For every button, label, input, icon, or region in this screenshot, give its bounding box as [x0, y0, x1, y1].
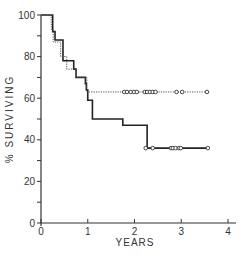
- solid-survival-curve: [41, 15, 207, 148]
- censor-marker: [205, 90, 209, 94]
- censor-marker: [206, 146, 210, 150]
- y-axis-label: % SURVIVING: [4, 75, 15, 164]
- series-layer: [41, 15, 210, 150]
- x-tick-label: 2: [132, 226, 138, 237]
- y-tick-label: 100: [18, 10, 35, 21]
- y-tick-label: 0: [29, 218, 35, 229]
- x-tick-label: 0: [38, 226, 44, 237]
- dotted-survival-curve: [41, 15, 207, 92]
- x-tick-label: 4: [225, 226, 231, 237]
- axes: 01234020406080100: [18, 10, 236, 238]
- y-tick-label: 80: [24, 51, 36, 62]
- censor-marker: [144, 146, 148, 150]
- censor-marker: [180, 90, 184, 94]
- x-tick-label: 3: [178, 226, 184, 237]
- censor-marker: [179, 146, 183, 150]
- y-tick-label: 20: [24, 176, 36, 187]
- censor-marker: [154, 90, 158, 94]
- censor-marker: [135, 90, 139, 94]
- censor-marker: [151, 146, 155, 150]
- survival-chart: 01234020406080100 YEARS % SURVIVING: [0, 0, 250, 260]
- y-tick-label: 60: [24, 93, 36, 104]
- y-tick-label: 40: [24, 134, 36, 145]
- censor-marker: [175, 90, 179, 94]
- x-axis-label: YEARS: [116, 237, 155, 248]
- x-tick-label: 1: [85, 226, 91, 237]
- censor-marker: [125, 90, 129, 94]
